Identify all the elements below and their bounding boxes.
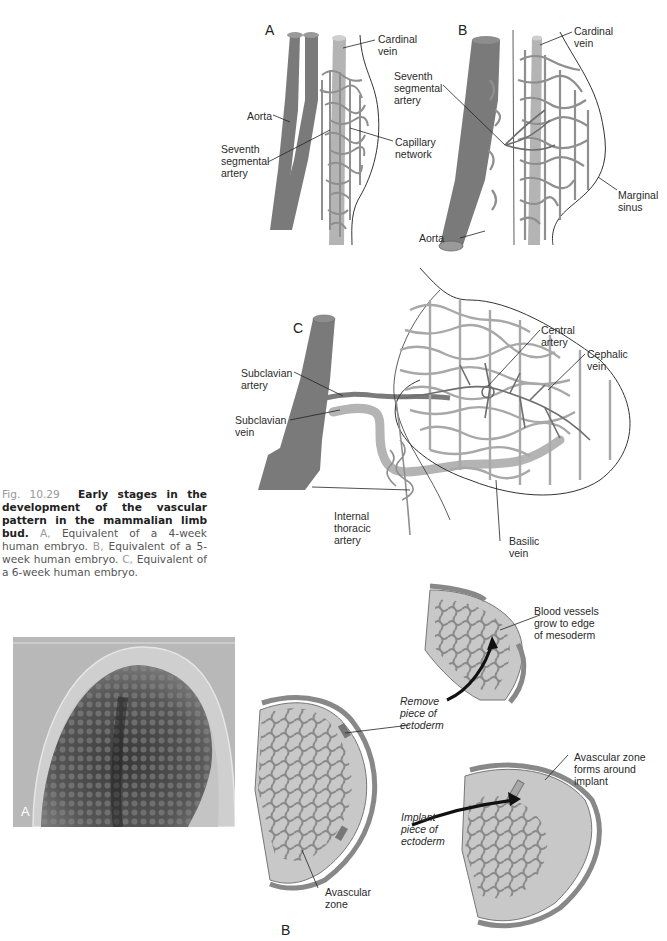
label-remove-piece: Remove piece of ectoderm — [400, 695, 444, 731]
label-avascular-zone: Avascular zone — [325, 886, 371, 910]
label-avascular-zone-forms: Avascular zone forms around implant — [574, 751, 646, 787]
diagram-letter-b: B — [281, 922, 290, 938]
implant-diagram-illustration — [0, 0, 667, 941]
label-implant-piece: Implant piece of ectoderm — [401, 811, 445, 847]
label-blood-vessels-grow: Blood vessels grow to edge of mesoderm — [534, 605, 599, 641]
